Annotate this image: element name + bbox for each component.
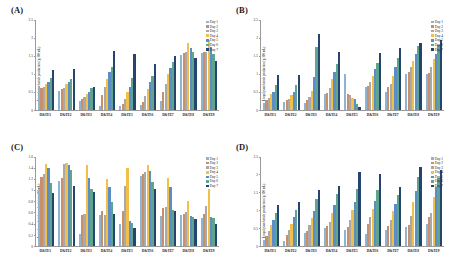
legend-item: Day 7 xyxy=(206,48,218,52)
y-tick-label: 1.5 xyxy=(254,191,259,195)
plot-area-c: Exopolysaccharide production (g/100 mL)0… xyxy=(8,153,221,270)
legend-swatch-icon xyxy=(206,157,209,160)
bar-group xyxy=(403,20,423,110)
bar xyxy=(113,214,115,246)
legend-item: Day 3 xyxy=(431,166,443,170)
bar xyxy=(73,69,75,110)
bar-group xyxy=(363,157,383,247)
legend-label: Day 5 xyxy=(210,175,218,179)
bar-group xyxy=(77,157,97,247)
legend-swatch-icon xyxy=(431,34,434,37)
bar xyxy=(338,52,340,110)
x-tick-label: D&TE7 xyxy=(158,249,178,259)
legend-swatch-icon xyxy=(206,44,209,47)
legend-a: Day 1Day 2Day 3Day 4Day 5Day 6Day 7 xyxy=(206,20,218,52)
legend-swatch-icon xyxy=(206,171,209,174)
bar xyxy=(318,34,320,110)
x-tick-label: D&TE4 xyxy=(321,249,341,259)
bar-group xyxy=(158,157,178,247)
y-tick-label: 1 xyxy=(31,188,33,192)
legend-swatch-icon xyxy=(206,39,209,42)
legend-label: Day 3 xyxy=(435,29,443,33)
legend-swatch-icon xyxy=(431,48,434,51)
legend-item: Day 1 xyxy=(206,20,218,24)
legend-label: Day 3 xyxy=(210,29,218,33)
legend-item: Day 6 xyxy=(431,43,443,47)
legend-swatch-icon xyxy=(431,166,434,169)
bar xyxy=(379,53,381,110)
y-tick-label: 2 xyxy=(256,173,258,177)
bar xyxy=(194,219,196,246)
bar-group xyxy=(138,20,158,110)
bar xyxy=(419,167,421,246)
x-tick-label: D&TE6 xyxy=(362,113,382,123)
legend-item: Day 3 xyxy=(431,29,443,33)
y-tick-label: 0.5 xyxy=(254,227,259,231)
x-tick-label: D&TE6 xyxy=(362,249,382,259)
bar xyxy=(277,75,279,110)
legend-swatch-icon xyxy=(431,157,434,160)
axes-a xyxy=(35,20,219,111)
x-tick-label: D&TE1 xyxy=(260,113,280,123)
legend-item: Day 6 xyxy=(431,179,443,183)
x-axis-labels-b: D&TE1D&TE2D&TE3D&TE4D&TE5D&TE6D&TE7D&TE8… xyxy=(260,113,444,123)
bar-group xyxy=(261,20,281,110)
axes-b xyxy=(260,20,444,111)
legend-label: Day 7 xyxy=(210,48,218,52)
bar-group xyxy=(97,20,117,110)
bar xyxy=(277,205,279,246)
legend-swatch-icon xyxy=(431,30,434,33)
bar xyxy=(318,190,320,246)
bar xyxy=(52,193,54,246)
bar-group xyxy=(302,20,322,110)
legend-item: Day 7 xyxy=(206,184,218,188)
bar xyxy=(93,87,95,110)
legend-c: Day 1Day 2Day 3Day 4Day 5Day 6Day 7 xyxy=(206,157,218,189)
legend-swatch-icon xyxy=(206,21,209,24)
legend-d: Day 1Day 2Day 3Day 4Day 5Day 6Day 7 xyxy=(431,157,443,189)
bar-group xyxy=(178,157,198,247)
y-tick-label: 0.6 xyxy=(29,211,34,215)
bar xyxy=(154,64,156,110)
legend-item: Day 2 xyxy=(206,25,218,29)
x-tick-label: D&TE3 xyxy=(301,113,321,123)
bar-groups-c xyxy=(36,157,219,247)
x-tick-label: D&TE8 xyxy=(403,113,423,123)
bar xyxy=(194,58,196,110)
bar-group xyxy=(342,20,362,110)
bar-group xyxy=(77,20,97,110)
bar xyxy=(298,202,300,246)
bar-group xyxy=(322,20,342,110)
legend-item: Day 4 xyxy=(431,170,443,174)
panel-a: (A)Exopolysaccharide production (g/100 m… xyxy=(0,0,225,137)
legend-label: Day 1 xyxy=(210,20,218,24)
legend-label: Day 7 xyxy=(435,184,443,188)
legend-item: Day 3 xyxy=(206,29,218,33)
legend-label: Day 3 xyxy=(210,166,218,170)
legend-item: Day 2 xyxy=(206,161,218,165)
y-tick-label: 0 xyxy=(31,245,33,249)
y-tick-label: 1 xyxy=(31,72,33,76)
legend-item: Day 4 xyxy=(431,34,443,38)
axes-c xyxy=(35,157,219,248)
bar xyxy=(358,107,360,110)
legend-swatch-icon xyxy=(431,44,434,47)
y-tick-label: 1.5 xyxy=(254,54,259,58)
y-tick-label: 2.5 xyxy=(254,18,259,22)
bar-group xyxy=(383,157,403,247)
legend-swatch-icon xyxy=(431,39,434,42)
bar-group xyxy=(117,157,137,247)
legend-label: Day 6 xyxy=(210,43,218,47)
bar xyxy=(174,56,176,110)
bar-group xyxy=(56,157,76,247)
legend-item: Day 4 xyxy=(206,34,218,38)
y-tick-label: 2.5 xyxy=(29,18,34,22)
x-tick-label: D&TE8 xyxy=(178,249,198,259)
legend-swatch-icon xyxy=(206,180,209,183)
y-tick-label: 0 xyxy=(256,109,258,113)
bar-group xyxy=(281,20,301,110)
bar xyxy=(133,54,135,109)
legend-label: Day 1 xyxy=(435,157,443,161)
legend-label: Day 6 xyxy=(435,179,443,183)
legend-label: Day 1 xyxy=(435,20,443,24)
